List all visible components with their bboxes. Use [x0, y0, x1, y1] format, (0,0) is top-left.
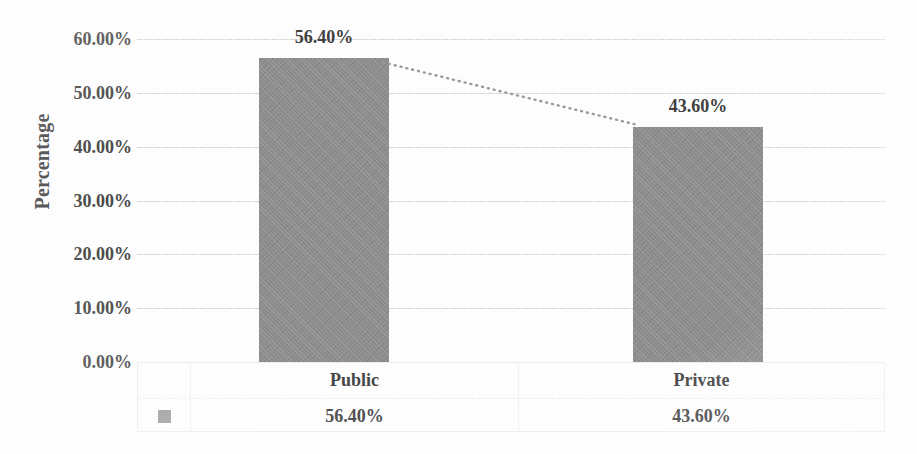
- legend-cell-empty: [138, 363, 191, 398]
- data-label-private: 43.60%: [669, 96, 728, 117]
- table-value-private: 43.60%: [519, 399, 884, 433]
- legend-swatch-icon: [158, 410, 171, 423]
- y-axis-tick-20: 20.00%: [22, 244, 132, 265]
- table-header-private: Private: [519, 363, 884, 398]
- table-value-public: 56.40%: [191, 399, 519, 433]
- y-axis-tick-30: 30.00%: [22, 190, 132, 211]
- data-label-public: 56.40%: [295, 27, 354, 48]
- trendline-path: [383, 62, 639, 125]
- trendline: [137, 39, 885, 362]
- y-axis-tick-40: 40.00%: [22, 136, 132, 157]
- y-axis-tick-10: 10.00%: [22, 298, 132, 319]
- legend-cell-swatch: [138, 399, 191, 433]
- table-value-row: 56.40% 43.60%: [138, 398, 884, 433]
- chart-container: Percentage 60.00%50.00%40.00%30.00%20.00…: [0, 0, 917, 454]
- y-axis-tick-0: 0.00%: [22, 352, 132, 373]
- table-header-row: Public Private: [138, 363, 884, 398]
- y-axis-tick-labels: 60.00%50.00%40.00%30.00%20.00%10.00%0.00…: [10, 0, 132, 454]
- y-axis-tick-50: 50.00%: [22, 82, 132, 103]
- chart-data-table: Public Private 56.40% 43.60%: [137, 362, 885, 432]
- plot-area: 56.40%43.60%: [137, 39, 885, 362]
- y-axis-tick-60: 60.00%: [22, 29, 132, 50]
- table-header-public: Public: [191, 363, 519, 398]
